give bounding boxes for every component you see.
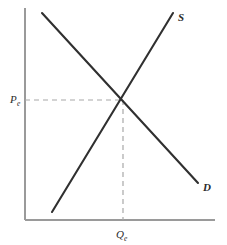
chart-canvas: S D P e Q e [0, 0, 227, 245]
equilibrium-quantity-label-subscript: e [124, 234, 128, 243]
equilibrium-price-label-subscript: e [17, 99, 21, 108]
supply-demand-chart: S D P e Q e [0, 0, 227, 245]
equilibrium-price-label: P [9, 93, 17, 105]
demand-curve-label: D [202, 181, 211, 193]
supply-curve-label: S [178, 11, 184, 23]
demand-curve [42, 13, 198, 183]
equilibrium-quantity-label: Q [116, 228, 124, 240]
